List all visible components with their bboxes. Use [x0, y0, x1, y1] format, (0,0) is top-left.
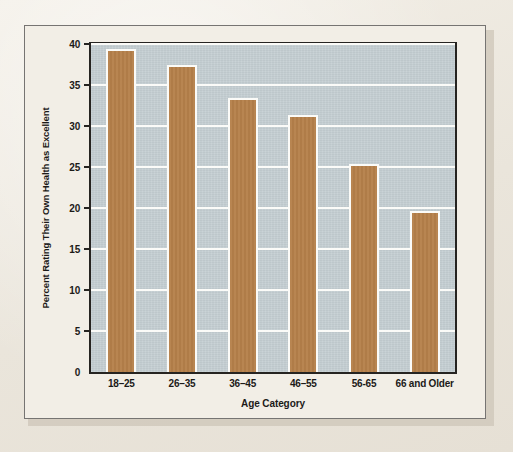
- gridline: [91, 207, 455, 209]
- y-axis-tick-mark: [84, 84, 89, 86]
- plot-area: [89, 42, 457, 374]
- x-axis-category-label: 46–55: [290, 378, 317, 389]
- y-axis-tick-mark: [84, 166, 89, 168]
- y-axis-tick-label: 5: [25, 326, 80, 337]
- y-axis-tick-label: 15: [25, 244, 80, 255]
- y-axis-tick-label: 40: [25, 39, 80, 50]
- y-axis-tick-mark: [84, 125, 89, 127]
- x-axis-category-label: 56-65: [352, 378, 377, 389]
- y-axis-tick-mark: [84, 330, 89, 332]
- gridline: [91, 84, 455, 86]
- gridline: [91, 125, 455, 127]
- x-axis-category-label: 66 and Older: [396, 378, 454, 389]
- y-axis-tick-label: 10: [25, 285, 80, 296]
- x-axis-title: Age Category: [89, 398, 457, 409]
- y-axis-tick-mark: [84, 289, 89, 291]
- figure-frame: Percent Rating Their Own Health as Excel…: [24, 25, 486, 419]
- y-axis-tick-label: 20: [25, 203, 80, 214]
- y-axis-tick-label: 30: [25, 121, 80, 132]
- y-axis-tick-mark: [84, 248, 89, 250]
- gridline: [91, 289, 455, 291]
- y-axis-tick-label: 25: [25, 162, 80, 173]
- gridline: [91, 43, 455, 45]
- figure-root: Percent Rating Their Own Health as Excel…: [0, 0, 513, 452]
- gridline: [91, 166, 455, 168]
- y-axis-tick-mark: [84, 43, 89, 45]
- x-axis-category-label: 26–35: [169, 378, 196, 389]
- bar-chart: Percent Rating Their Own Health as Excel…: [25, 26, 487, 420]
- gridline: [91, 330, 455, 332]
- x-axis-category-label: 36–45: [229, 378, 256, 389]
- gridline: [91, 248, 455, 250]
- y-axis-tick-label: 35: [25, 80, 80, 91]
- x-axis-tick-labels: 18–2526–3536–4546–5556-6566 and Older: [89, 378, 457, 394]
- x-axis-category-label: 18–25: [108, 378, 135, 389]
- y-axis-tick-mark: [84, 207, 89, 209]
- y-axis-tick-label: 0: [25, 367, 80, 378]
